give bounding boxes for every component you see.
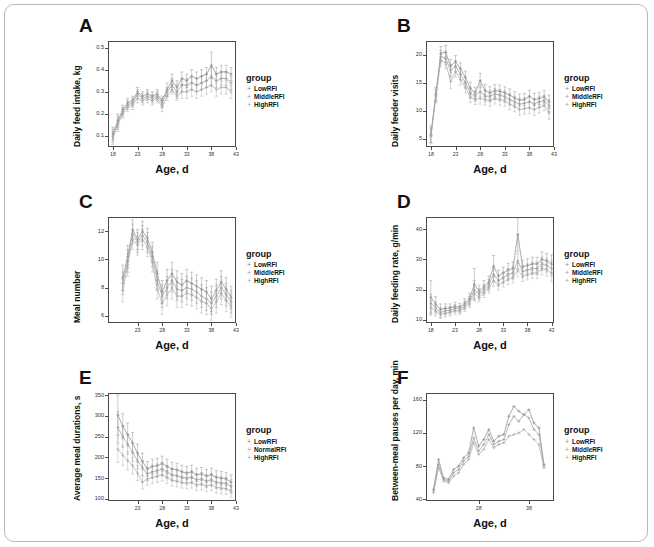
data-point-marker — [550, 271, 553, 274]
series-lowrfi — [429, 218, 553, 315]
data-point-marker — [487, 438, 490, 441]
data-point-marker — [161, 106, 164, 109]
series-highrfi — [111, 79, 232, 145]
data-point-marker — [542, 466, 545, 469]
data-point-marker — [487, 428, 490, 431]
series-layer-e — [13, 365, 331, 543]
panel-e: E1001502002503003502328333843Average mea… — [13, 365, 331, 543]
data-point-marker — [175, 479, 178, 482]
data-point-marker — [146, 97, 149, 100]
series-line — [434, 406, 544, 489]
data-point-marker — [161, 302, 164, 305]
series-middlerfi — [432, 413, 546, 493]
series-layer-a — [13, 13, 331, 189]
data-point-marker — [507, 423, 510, 426]
data-point-marker — [229, 73, 232, 76]
data-point-marker — [190, 88, 193, 91]
series-middlerfi — [111, 68, 232, 143]
series-layer-b — [331, 13, 649, 189]
panel-a: A0.10.20.30.40.5182328333843Daily feed i… — [13, 13, 331, 189]
data-point-marker — [479, 79, 482, 82]
data-point-marker — [156, 287, 159, 290]
data-point-marker — [444, 312, 447, 315]
series-middlerfi — [429, 253, 553, 317]
data-point-marker — [185, 90, 188, 93]
data-point-marker — [220, 86, 223, 89]
data-point-marker — [229, 490, 232, 493]
data-point-marker — [190, 293, 193, 296]
data-point-marker — [523, 107, 526, 110]
data-point-marker — [161, 473, 164, 476]
data-point-marker — [472, 436, 475, 439]
panel-b: B5101520182328333843Daily feeder visitsA… — [331, 13, 649, 189]
data-point-marker — [483, 98, 486, 101]
figure-frame: A0.10.20.30.40.5182328333843Daily feed i… — [4, 4, 648, 542]
data-point-marker — [111, 137, 114, 140]
data-point-marker — [454, 70, 457, 73]
data-point-marker — [479, 97, 482, 100]
data-point-marker — [437, 458, 440, 461]
series-line — [118, 427, 231, 486]
data-point-marker — [175, 295, 178, 298]
data-point-marker — [469, 95, 472, 98]
data-point-marker — [205, 86, 208, 89]
data-point-marker — [180, 295, 183, 298]
series-highrfi — [429, 262, 553, 318]
series-layer-c — [13, 189, 331, 365]
data-point-marker — [516, 259, 519, 262]
data-point-marker — [472, 426, 475, 429]
data-point-marker — [538, 106, 541, 109]
panel-d: D10203040182328333843Daily feeding rate,… — [331, 189, 649, 365]
panel-f: F40801201602838Between-meal pauses per d… — [331, 365, 649, 543]
data-point-marker — [526, 273, 529, 276]
data-point-marker — [531, 271, 534, 274]
data-point-marker — [528, 106, 531, 109]
data-point-marker — [512, 433, 515, 436]
data-point-marker — [220, 77, 223, 80]
data-point-marker — [459, 78, 462, 81]
panel-c: C6810122328333843Meal numberAge, dgroup+… — [13, 189, 331, 365]
data-point-marker — [195, 90, 198, 93]
data-point-marker — [131, 451, 134, 454]
data-point-marker — [533, 108, 536, 111]
series-line — [118, 415, 231, 482]
series-highrfi — [429, 54, 550, 143]
data-point-marker — [432, 491, 435, 494]
series-layer-d — [331, 189, 649, 365]
data-point-marker — [449, 311, 452, 314]
data-point-marker — [507, 415, 510, 418]
data-point-marker — [502, 438, 505, 441]
data-point-marker — [151, 99, 154, 102]
data-point-marker — [141, 99, 144, 102]
series-line — [118, 449, 231, 491]
data-point-marker — [200, 88, 203, 91]
data-point-marker — [449, 80, 452, 83]
series-highrfi — [432, 428, 546, 494]
series-lowrfi — [111, 52, 232, 140]
data-point-marker — [507, 277, 510, 280]
series-layer-f — [331, 365, 649, 543]
data-point-marker — [170, 479, 173, 482]
data-point-marker — [487, 433, 490, 436]
data-point-marker — [516, 233, 519, 236]
data-point-marker — [429, 306, 432, 309]
data-point-marker — [434, 95, 437, 98]
data-point-marker — [458, 309, 461, 312]
data-point-marker — [185, 292, 188, 295]
data-point-marker — [116, 426, 119, 429]
data-point-marker — [545, 268, 548, 271]
series-line — [431, 235, 552, 310]
data-point-marker — [210, 64, 213, 67]
data-point-marker — [121, 289, 124, 292]
